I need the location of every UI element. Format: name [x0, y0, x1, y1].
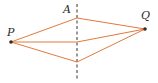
- path-via-bottom: [11, 29, 145, 62]
- label-q: Q: [141, 9, 150, 22]
- diagram-canvas: P A Q: [0, 0, 158, 83]
- label-p: P: [6, 26, 15, 39]
- path-lines: [11, 18, 145, 62]
- point-p: [9, 40, 13, 44]
- point-q: [143, 27, 147, 31]
- path-via-middle: [11, 29, 145, 42]
- label-a: A: [62, 3, 71, 16]
